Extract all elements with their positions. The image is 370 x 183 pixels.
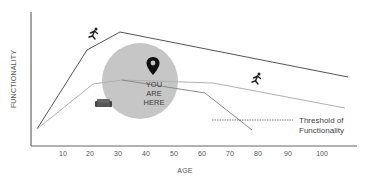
y-axis-label: FUNCTIONALITY — [10, 50, 17, 108]
threshold-label-line1: Threshold of — [299, 116, 344, 125]
runner-icon — [252, 73, 261, 85]
runner-icon — [89, 28, 98, 40]
x-tick: 40 — [142, 150, 150, 157]
functionality-age-chart: Threshold of Functionality YOU ARE HERE … — [0, 0, 370, 183]
x-tick: 80 — [254, 150, 262, 157]
x-tick: 90 — [284, 150, 292, 157]
upper-line — [37, 32, 348, 129]
x-tick: 20 — [86, 150, 94, 157]
x-tick: 100 — [316, 150, 328, 157]
x-tick: 50 — [170, 150, 178, 157]
x-tick: 30 — [114, 150, 122, 157]
x-tick: 60 — [198, 150, 206, 157]
couch-icon — [95, 99, 112, 107]
x-axis-label: AGE — [177, 167, 193, 174]
here-label: HERE — [144, 98, 165, 107]
x-tick: 10 — [59, 150, 67, 157]
x-tick: 70 — [226, 150, 234, 157]
you-label: YOU — [146, 80, 162, 89]
threshold-label-line2: Functionality — [299, 126, 344, 135]
are-label: ARE — [146, 89, 161, 98]
